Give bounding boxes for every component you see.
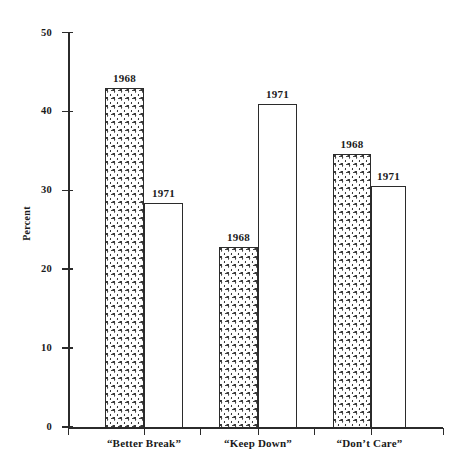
y-tick-label-wrap: 30: [0, 185, 73, 186]
bar-value-label: 1971: [138, 188, 189, 199]
y-tick-label-wrap: 40: [0, 106, 73, 107]
x-tick-mark: [68, 428, 69, 435]
y-tick-mark: [62, 190, 73, 192]
bar-1971-b1: [144, 203, 183, 428]
bar-1968-b2: [219, 247, 258, 428]
x-tick-mark: [144, 428, 145, 435]
bar-value-label: 1968: [99, 73, 150, 84]
y-tick-label: 50: [26, 28, 52, 39]
bar-value-label: 1968: [213, 232, 264, 243]
category-label-2: “Don’t Care”: [300, 437, 440, 449]
y-tick-mark: [62, 111, 73, 113]
bar-value-label: 1968: [327, 139, 377, 150]
y-tick-label-wrap: 0: [0, 422, 73, 423]
x-tick-mark: [258, 428, 259, 435]
y-tick-label-wrap: 20: [0, 264, 73, 265]
y-tick-mark: [62, 347, 73, 349]
y-tick-label-wrap: 10: [0, 343, 73, 344]
y-axis-line: [68, 32, 70, 428]
bar-value-label: 1971: [252, 89, 303, 100]
bar-1971-b5: [371, 186, 406, 429]
x-tick-mark: [200, 428, 201, 435]
x-tick-mark: [443, 428, 444, 435]
y-tick-label: 0: [26, 422, 52, 433]
y-tick-mark: [62, 268, 73, 270]
y-tick-label-wrap: 50: [0, 28, 73, 29]
bar-1971-b3: [258, 104, 297, 429]
bar-chart: Percent 01020304050 19681971196819711968…: [0, 0, 451, 464]
y-axis-title: Percent: [21, 189, 32, 259]
bar-value-label: 1971: [365, 171, 412, 182]
x-tick-mark: [314, 428, 315, 435]
x-tick-mark: [371, 428, 372, 435]
y-tick-mark: [62, 32, 73, 34]
y-tick-label: 30: [26, 185, 52, 196]
y-tick-label: 20: [26, 264, 52, 275]
bar-1968-b0: [105, 88, 144, 428]
y-tick-label: 10: [26, 343, 52, 354]
y-tick-label: 40: [26, 106, 52, 117]
bar-1968-b4: [333, 154, 371, 428]
